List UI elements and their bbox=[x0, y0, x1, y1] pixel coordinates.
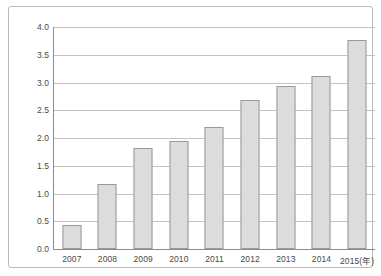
x-axis-tick-label: 2009 bbox=[134, 254, 153, 264]
x-axis-tick-label: 2007 bbox=[62, 254, 81, 264]
plot-area: 0.00.51.01.52.02.53.03.54.0 200720082009… bbox=[53, 27, 375, 250]
bar[interactable] bbox=[98, 184, 117, 249]
x-axis-tick-label: 2014 bbox=[312, 254, 331, 264]
y-axis-tick-label: 3.5 bbox=[37, 50, 49, 60]
x-axis-tick-label: 2011 bbox=[205, 254, 224, 264]
x-axis-tick-label: 2012 bbox=[241, 254, 260, 264]
bar-slot: 2015(年) bbox=[339, 27, 375, 249]
bar[interactable] bbox=[241, 100, 260, 249]
bar[interactable] bbox=[169, 141, 188, 249]
bar-slot: 2012 bbox=[232, 27, 268, 249]
bar-slot: 2013 bbox=[268, 27, 304, 249]
bar[interactable] bbox=[276, 86, 295, 249]
bar[interactable] bbox=[134, 148, 153, 249]
bar-slot: 2007 bbox=[54, 27, 90, 249]
y-axis-tick-label: 2.0 bbox=[37, 133, 49, 143]
bar[interactable] bbox=[62, 225, 81, 249]
bar-slot: 2014 bbox=[304, 27, 340, 249]
bar[interactable] bbox=[205, 127, 224, 249]
x-axis-tick-label: 2010 bbox=[169, 254, 188, 264]
y-axis-tick-label: 1.0 bbox=[37, 189, 49, 199]
bar-slot: 2009 bbox=[125, 27, 161, 249]
bar-chart-figure: 0.00.51.01.52.02.53.03.54.0 200720082009… bbox=[0, 0, 381, 276]
y-axis-tick-label: 0.0 bbox=[37, 244, 49, 254]
bar-slot: 2011 bbox=[197, 27, 233, 249]
chart-frame: 0.00.51.01.52.02.53.03.54.0 200720082009… bbox=[8, 6, 373, 268]
y-axis-tick-label: 4.0 bbox=[37, 22, 49, 32]
x-axis-tick-label: 2008 bbox=[98, 254, 117, 264]
y-axis-tick-label: 3.0 bbox=[37, 78, 49, 88]
y-axis-tick-label: 2.5 bbox=[37, 105, 49, 115]
y-axis-tick-label: 1.5 bbox=[37, 161, 49, 171]
x-axis-tick-label: 2015(年) bbox=[340, 254, 374, 266]
x-axis-tick-label: 2013 bbox=[276, 254, 295, 264]
bar-slot: 2008 bbox=[90, 27, 126, 249]
y-axis-tick-label: 0.5 bbox=[37, 216, 49, 226]
bar-slot: 2010 bbox=[161, 27, 197, 249]
gridline-0.0 bbox=[54, 249, 375, 250]
bar[interactable] bbox=[348, 40, 367, 249]
bars-group: 200720082009201020112012201320142015(年) bbox=[54, 27, 375, 249]
bar[interactable] bbox=[312, 76, 331, 249]
